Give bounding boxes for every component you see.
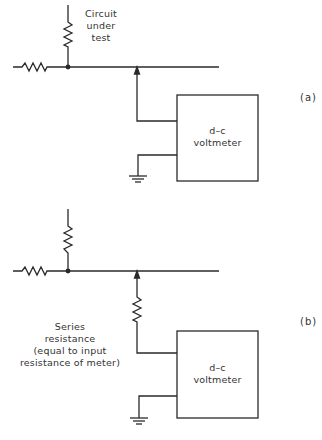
vertical-resistor-b: [64, 209, 72, 271]
panel-label-b: (b): [300, 316, 317, 327]
label-line: voltmeter: [177, 374, 258, 386]
input-resistor-b: [13, 267, 68, 275]
panel-label-a: (a): [300, 92, 317, 103]
series-resistance-label: Series resistance (equal to input resist…: [14, 321, 126, 369]
junction-dot-b: [66, 269, 70, 273]
ground-wire-b: [139, 396, 177, 418]
junction-dot-a: [66, 65, 70, 69]
probe-arrow-b: [135, 271, 140, 278]
label-line: resistance: [14, 333, 126, 345]
probe-series-resistor-b: [133, 277, 177, 353]
label-line: (equal to input: [14, 345, 126, 357]
circuit-under-test-label: Circuit under test: [78, 8, 124, 44]
input-resistor-a: [13, 63, 68, 71]
vertical-resistor-a: [64, 5, 72, 67]
voltmeter-label-b: d–c voltmeter: [177, 362, 258, 386]
label-line: Circuit: [78, 8, 124, 20]
voltmeter-label-a: d–c voltmeter: [177, 125, 258, 149]
label-line: under: [78, 20, 124, 32]
label-line: d–c: [177, 362, 258, 374]
label-line: voltmeter: [177, 137, 258, 149]
panel-a-circuit: [13, 5, 258, 182]
probe-wire-a: [137, 73, 177, 121]
ground-wire-a: [138, 155, 177, 176]
label-line: d–c: [177, 125, 258, 137]
label-line: test: [78, 32, 124, 44]
panel-b-circuit: [13, 209, 258, 424]
circuit-diagram: [0, 0, 322, 440]
label-line: Series: [14, 321, 126, 333]
label-line: resistance of meter): [14, 357, 126, 369]
probe-arrow-a: [135, 67, 140, 74]
